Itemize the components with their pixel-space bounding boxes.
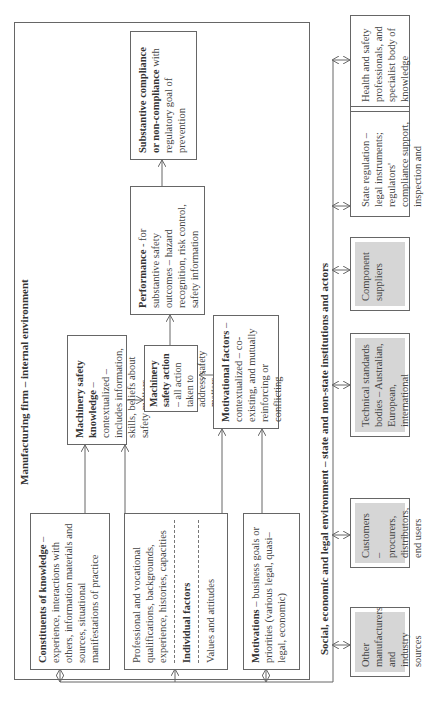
action-heading: Machinery safety action	[148, 353, 171, 407]
values-text: Values and attitudes	[204, 520, 217, 663]
actor-label: State regulation – legal instruments; re…	[355, 111, 405, 212]
motivations-heading: Motivations	[250, 609, 261, 663]
performance-box: Performance - for substantive safety out…	[130, 186, 205, 315]
motivational-heading: Motivational factors	[220, 331, 231, 422]
actor-other-manufacturers: Other manufacturers and industry sources	[350, 607, 410, 677]
constituents-heading: Constituents of knowledge	[37, 545, 48, 663]
firm-title: Manufacturing firm – internal environmen…	[18, 279, 30, 485]
actor-label: Technical standards bodies – Australian,…	[355, 338, 405, 432]
actor-label: Health and safety professionals, and spe…	[355, 20, 405, 107]
actor-state-regulation: State regulation – legal instruments; re…	[350, 106, 410, 217]
individual-factors-box: Professional and vocational qualificatio…	[124, 513, 228, 670]
actor-label: Component suppliers	[355, 242, 405, 306]
actor-component-suppliers: Component suppliers	[350, 237, 410, 311]
divider	[174, 520, 175, 663]
individual-qualifications-text: Professional and vocational qualificatio…	[130, 520, 169, 663]
substantive-compliance-box: Substantive compliance or non-compliance…	[130, 31, 197, 160]
actor-label: Other manufacturers and industry sources	[355, 612, 405, 672]
actor-customers: Customers – procurers, distributors, end…	[350, 498, 410, 568]
motivations-box: Motivations – business goals or prioriti…	[243, 513, 300, 670]
actor-technical-standards: Technical standards bodies – Australian,…	[350, 333, 410, 437]
actor-health-safety-professionals: Health and safety professionals, and spe…	[350, 15, 410, 112]
motivational-factors-box: Motivational factors – contextualized – …	[213, 315, 279, 429]
machinery-safety-knowledge-box: Machinery safety knowledge – contextuali…	[67, 335, 127, 445]
machinery-safety-action-box: Machinery safety action – all action tak…	[144, 345, 198, 412]
knowledge-heading: Machinery safety knowledge	[74, 360, 98, 438]
environment-title: Social, economic and legal environment –…	[318, 263, 330, 655]
constituents-of-knowledge-box: Constituents of knowledge – experience, …	[30, 513, 110, 670]
individual-factors-heading: Individual factors	[181, 583, 192, 663]
actor-label: Customers – procurers, distributors, end…	[355, 503, 405, 563]
divider	[198, 520, 199, 663]
rotated-diagram: Manufacturing firm – internal environmen…	[0, 0, 424, 715]
performance-heading: Performance	[137, 250, 148, 308]
